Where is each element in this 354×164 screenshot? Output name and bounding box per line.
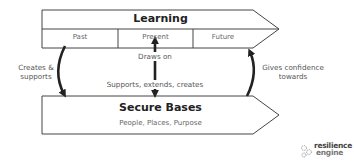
- secure-bases-subtitle: People, Places, Purpose: [42, 119, 279, 127]
- segment-future: Future: [193, 33, 253, 41]
- resilience-engine-logo: resilience engine: [300, 141, 354, 161]
- secure-bases-title: Secure Bases: [42, 101, 279, 114]
- supports-line: supports: [10, 72, 62, 81]
- learning-title: Learning: [42, 12, 279, 25]
- logo-text-engine: engine: [316, 148, 343, 157]
- draws-on-label: Draws on: [125, 52, 185, 61]
- creates-supports-label: Creates & supports: [10, 63, 62, 81]
- gives-confidence-label: Gives confidence towards: [258, 63, 328, 81]
- gears-icon: [300, 144, 313, 158]
- creates-line: Creates &: [10, 63, 62, 72]
- gives-confidence-line: Gives confidence: [258, 63, 328, 72]
- right-curved-arrow: [247, 52, 254, 96]
- segment-present: Present: [118, 33, 193, 41]
- supports-extends-creates-label: Supports, extends, creates: [95, 80, 215, 89]
- towards-line: towards: [258, 72, 328, 81]
- segment-past: Past: [42, 33, 118, 41]
